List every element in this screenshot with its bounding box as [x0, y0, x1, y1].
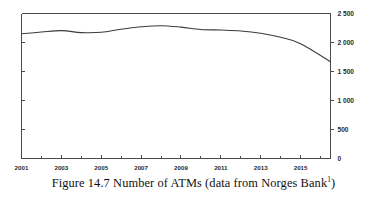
x-tick-label: 2007 [134, 164, 148, 171]
y-tick-label: 2 000 [338, 39, 355, 46]
x-tick-label: 2005 [94, 164, 108, 171]
y-tick-label: 1 500 [338, 68, 355, 75]
x-tick-label: 2011 [214, 164, 228, 171]
x-tick-label: 2003 [54, 164, 68, 171]
y-tick-label: 500 [338, 126, 349, 133]
x-tick-label: 2001 [15, 164, 29, 171]
x-tick-label: 2013 [254, 164, 268, 171]
figure-container: 20012003200520072009201120132015 05001 0… [0, 0, 387, 202]
y-tick-label: 0 [338, 155, 342, 162]
chart-svg: 20012003200520072009201120132015 05001 0… [0, 0, 387, 175]
y-tick-label: 2 500 [338, 10, 355, 17]
atm-line-chart: 20012003200520072009201120132015 05001 0… [0, 0, 387, 175]
x-tick-label: 2009 [174, 164, 188, 171]
y-tick-label: 1 000 [338, 97, 355, 104]
chart-background [0, 0, 387, 175]
x-tick-label: 2015 [294, 164, 308, 171]
figure-caption-text: Figure 14.7 Number of ATMs (data from No… [52, 176, 328, 190]
figure-caption: Figure 14.7 Number of ATMs (data from No… [0, 176, 387, 191]
figure-caption-closing: ) [331, 176, 335, 190]
